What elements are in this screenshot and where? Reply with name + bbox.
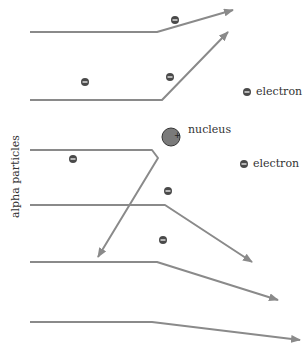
electron-icon — [240, 160, 248, 168]
nucleus-icon: + — [162, 128, 181, 146]
alpha-particles-label: alpha particles — [9, 135, 22, 218]
nucleus-label: nucleus — [188, 123, 231, 136]
svg-text:+: + — [174, 131, 181, 140]
electron-label: electron — [253, 157, 299, 170]
alpha-particle-path — [30, 205, 252, 262]
electron-icon — [166, 73, 174, 81]
alpha-particle-paths — [30, 10, 300, 340]
electron-label: electron — [256, 85, 302, 98]
electron-icon — [171, 16, 179, 24]
electron-icon — [159, 236, 167, 244]
alpha-particle-path — [30, 262, 278, 300]
alpha-particle-path — [30, 322, 300, 340]
alpha-particle-path — [30, 150, 158, 257]
electron-icon — [81, 78, 89, 86]
electron-icon — [164, 187, 172, 195]
electron-icon — [243, 88, 251, 96]
electron-icon — [69, 155, 77, 163]
diagram-canvas: + — [0, 0, 306, 350]
alpha-particle-path — [30, 32, 228, 100]
rutherford-scattering-diagram: + nucleus electron electron alpha partic… — [0, 0, 306, 350]
alpha-particle-path — [30, 10, 233, 32]
